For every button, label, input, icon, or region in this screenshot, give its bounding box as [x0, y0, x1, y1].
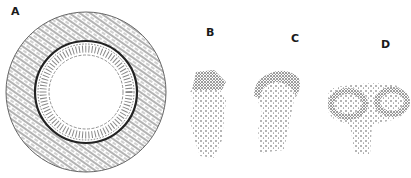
- panel-a-drawing: [6, 12, 166, 172]
- panel-d-drawing: [327, 83, 408, 155]
- panel-c-drawing: [254, 71, 300, 153]
- figure-drawings: [0, 0, 411, 178]
- panel-b-drawing: [190, 70, 226, 158]
